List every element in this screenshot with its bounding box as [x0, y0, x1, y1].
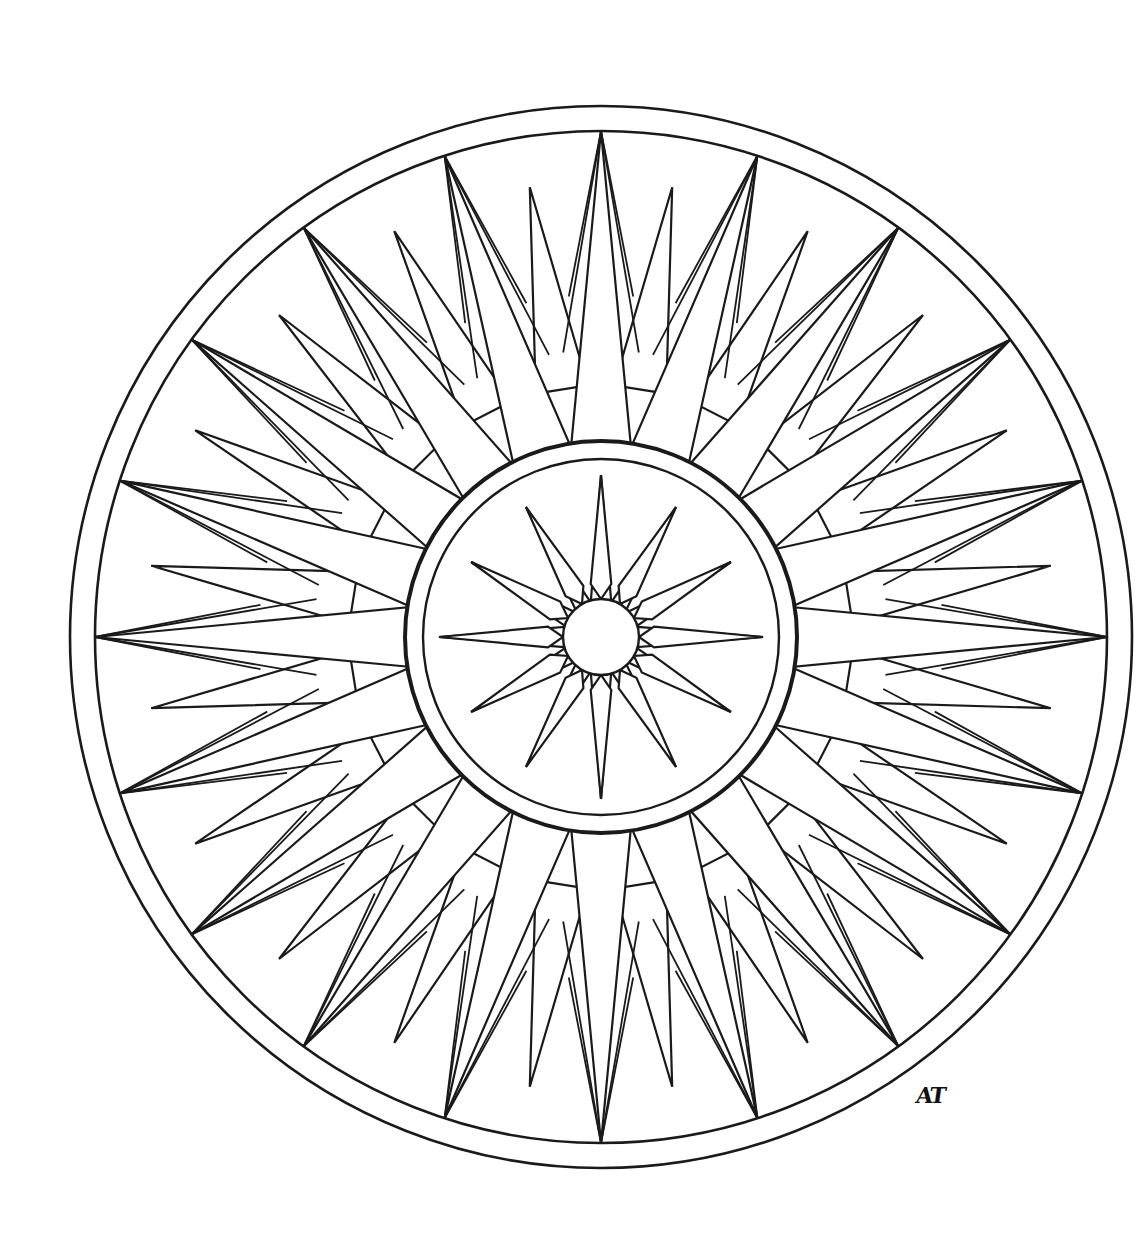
- center-hub: [563, 599, 639, 675]
- artist-signature: AT: [914, 1082, 946, 1108]
- main-ray: [571, 131, 631, 447]
- mandala-drawing: [0, 0, 1141, 1239]
- main-ray: [95, 607, 411, 667]
- main-ray: [571, 827, 631, 1143]
- main-ray: [791, 607, 1107, 667]
